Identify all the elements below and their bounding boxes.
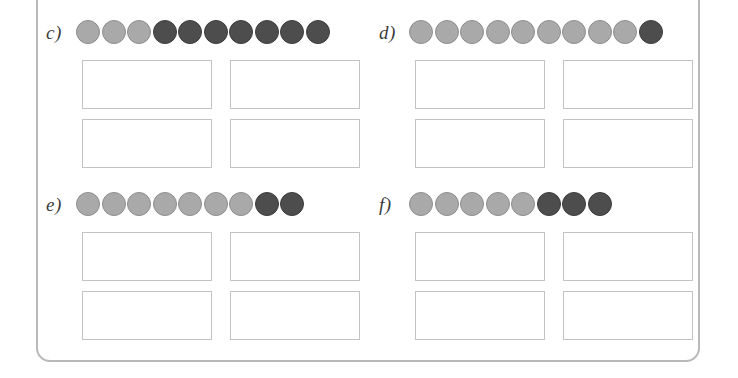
exercise-e-label: e) [46,195,76,214]
answer-box[interactable] [230,232,360,281]
token-row-e [76,192,304,216]
exercise-f: f) [379,188,695,360]
answer-box-row [82,291,362,340]
token-circle-light [435,192,459,216]
answer-box-row [82,232,362,281]
token-circle-dark [537,192,561,216]
answer-box[interactable] [415,291,545,340]
exercise-d: d) [379,16,695,188]
answer-box[interactable] [563,60,693,109]
token-circle-light [486,20,510,44]
token-circle-light [153,192,177,216]
exercise-d-header: d) [379,16,663,48]
token-circle-light [537,20,561,44]
token-circle-light [460,192,484,216]
token-circle-light [127,192,151,216]
token-circle-light [76,192,100,216]
answer-box[interactable] [82,232,212,281]
token-circle-dark [588,192,612,216]
answer-boxes-c [82,60,362,178]
answer-box-row [82,119,362,168]
token-circle-dark [280,192,304,216]
token-circle-light [102,192,126,216]
answer-box[interactable] [82,291,212,340]
token-circle-dark [562,192,586,216]
answer-box[interactable] [230,119,360,168]
exercise-d-label: d) [379,23,409,42]
answer-box[interactable] [563,291,693,340]
answer-boxes-e [82,232,362,350]
answer-box[interactable] [82,119,212,168]
token-circle-light [562,20,586,44]
token-circle-light [588,20,612,44]
token-row-c [76,20,330,44]
exercise-e: e) [46,188,362,360]
token-circle-light [409,20,433,44]
exercise-c: c) [46,16,362,188]
answer-box[interactable] [563,119,693,168]
exercise-f-header: f) [379,188,612,220]
token-circle-dark [280,20,304,44]
exercise-f-label: f) [379,195,409,214]
answer-box[interactable] [230,60,360,109]
token-circle-dark [153,20,177,44]
token-circle-dark [204,20,228,44]
token-circle-light [229,192,253,216]
token-circle-light [613,20,637,44]
answer-boxes-d [415,60,695,178]
token-circle-dark [229,20,253,44]
answer-box-row [82,60,362,109]
token-circle-dark [639,20,663,44]
answer-box[interactable] [415,119,545,168]
token-row-f [409,192,612,216]
token-circle-dark [255,192,279,216]
token-circle-light [435,20,459,44]
token-circle-light [178,192,202,216]
answer-box[interactable] [563,232,693,281]
exercise-grid: c) d) [0,0,738,378]
answer-box-row [415,119,695,168]
token-circle-light [460,20,484,44]
token-circle-light [204,192,228,216]
answer-box-row [415,60,695,109]
token-circle-light [511,20,535,44]
token-circle-light [486,192,510,216]
token-circle-dark [178,20,202,44]
answer-box[interactable] [415,232,545,281]
answer-box[interactable] [230,291,360,340]
token-circle-light [127,20,151,44]
token-circle-dark [306,20,330,44]
answer-box[interactable] [415,60,545,109]
answer-box[interactable] [82,60,212,109]
exercise-c-label: c) [46,23,76,42]
token-circle-dark [255,20,279,44]
exercise-e-header: e) [46,188,304,220]
token-row-d [409,20,663,44]
token-circle-light [76,20,100,44]
answer-box-row [415,232,695,281]
token-circle-light [102,20,126,44]
exercise-c-header: c) [46,16,330,48]
answer-boxes-f [415,232,695,350]
token-circle-light [409,192,433,216]
token-circle-light [511,192,535,216]
answer-box-row [415,291,695,340]
